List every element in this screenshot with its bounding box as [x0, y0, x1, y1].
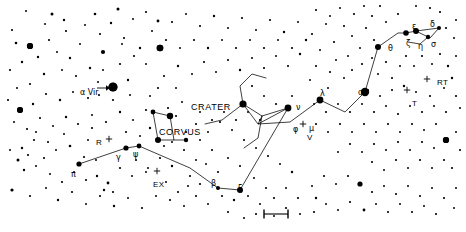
bright-star-beta-hydrae	[216, 186, 220, 190]
star-dot	[255, 147, 257, 149]
star-dot	[101, 50, 105, 54]
star-dot	[395, 159, 397, 161]
star-dot	[249, 39, 251, 41]
star-dot	[335, 59, 337, 61]
star-dot	[431, 63, 433, 65]
star-dot	[453, 37, 455, 39]
star-dot	[52, 125, 54, 127]
star-dot	[397, 113, 399, 115]
star-dot	[443, 197, 445, 199]
star-dot	[313, 211, 315, 213]
star-dot	[259, 119, 261, 121]
star-dot	[27, 154, 29, 156]
star-dot	[363, 5, 365, 7]
star-dot	[311, 185, 313, 187]
star-dot	[32, 103, 34, 105]
star-dot	[77, 123, 79, 125]
star-dot	[323, 175, 325, 177]
star-dot	[61, 69, 63, 71]
star-dot	[207, 131, 209, 133]
star-dot	[132, 18, 134, 20]
chart-background	[0, 0, 466, 232]
star-dot	[227, 27, 229, 29]
star-dot	[233, 199, 235, 201]
star-dot	[375, 203, 377, 205]
star-dot	[163, 75, 165, 77]
star-dot	[363, 209, 366, 212]
star-dot	[193, 39, 195, 41]
star-dot	[455, 19, 457, 21]
star-dot	[10, 188, 13, 191]
bright-star-lambda-hydrae	[317, 97, 324, 104]
star-dot	[253, 177, 255, 179]
star-dot	[385, 105, 387, 107]
star-dot	[123, 37, 125, 39]
star-dot	[313, 103, 315, 105]
star-dot	[379, 5, 381, 7]
star-dot	[373, 39, 375, 41]
star-dot	[99, 33, 101, 35]
star-dot	[439, 53, 441, 55]
star-dot	[413, 65, 415, 67]
star-dot	[15, 42, 18, 45]
bright-star-xi-hydrae	[237, 187, 243, 193]
star-dot	[159, 157, 161, 159]
star-dot	[255, 213, 257, 215]
star-dot	[421, 141, 423, 143]
star-dot	[132, 119, 134, 121]
star-dot	[339, 7, 341, 9]
star-dot	[69, 145, 72, 148]
star-dot	[405, 55, 407, 57]
star-dot	[39, 117, 41, 119]
star-dot	[349, 201, 351, 203]
star-dot	[349, 111, 351, 113]
star-dot	[459, 149, 461, 151]
star-dot	[96, 175, 98, 177]
star-dot	[65, 116, 67, 118]
star-dot	[151, 30, 153, 32]
star-dot	[409, 149, 411, 151]
star-dot	[251, 85, 253, 87]
star-dot	[211, 119, 213, 121]
star-chart: CRATERCORVUSα VirπγψβξνφμλαθζεησδREXVTRT	[0, 0, 466, 232]
star-dot	[315, 9, 317, 11]
bright-star-pi-hydrae	[76, 161, 81, 166]
star-dot	[171, 141, 173, 143]
star-dot	[183, 205, 185, 207]
star-dot	[403, 85, 405, 87]
star-dot	[73, 171, 75, 173]
star-dot	[333, 41, 335, 43]
star-dot	[119, 63, 121, 65]
star-dot	[415, 91, 417, 93]
star-dot	[421, 111, 423, 113]
star-dot	[399, 203, 401, 205]
star-dot	[133, 55, 135, 57]
star-dot	[419, 159, 421, 161]
star-dot	[195, 195, 197, 197]
star-dot	[231, 129, 233, 131]
star-dot	[351, 69, 353, 71]
star-dot	[387, 211, 389, 213]
bright-star-bright-star-top-left	[27, 43, 33, 49]
bright-star-alpha-virginis-spica	[108, 82, 117, 91]
star-dot	[337, 209, 339, 211]
star-dot	[399, 131, 401, 133]
star-dot	[195, 123, 197, 125]
star-dot	[175, 87, 177, 89]
star-dot	[112, 99, 114, 101]
star-dot	[433, 105, 435, 107]
bright-star-sigma-hydrae	[426, 35, 430, 39]
star-dot	[149, 127, 151, 129]
star-dot	[283, 31, 285, 33]
star-dot	[325, 23, 327, 25]
star-dot	[235, 47, 237, 49]
star-dot	[279, 163, 281, 165]
star-dot	[89, 67, 91, 69]
star-dot	[145, 63, 147, 65]
star-dot	[26, 128, 28, 130]
star-dot	[373, 111, 375, 113]
star-dot	[351, 35, 353, 37]
star-dot	[69, 57, 71, 59]
star-dot	[127, 79, 129, 81]
star-dot	[387, 123, 389, 125]
